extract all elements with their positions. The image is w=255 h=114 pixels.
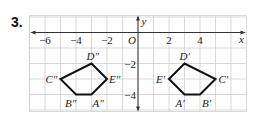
- x-tick-label: −2: [101, 34, 113, 46]
- y-axis-arrow-down-icon: [136, 107, 140, 112]
- origin-label: O: [128, 34, 136, 46]
- x-tick-label: 4: [197, 34, 203, 46]
- x-tick-label: −4: [70, 34, 82, 46]
- vertex-label: B″: [65, 97, 77, 109]
- vertex-label: E″: [108, 73, 121, 85]
- y-axis-arrow-up-icon: [136, 16, 140, 21]
- x-axis-arrow-left-icon: [31, 31, 36, 35]
- vertex-label: C″: [46, 73, 58, 85]
- x-axis-label: x: [238, 33, 244, 45]
- coordinate-plane: −6−4−224−2−4Oxy A′B′C′D′E′A″B″C″D″E″: [0, 0, 255, 114]
- vertex-label: D′: [179, 50, 191, 62]
- vertex-label: A′: [175, 97, 186, 109]
- vertex-label: E′: [155, 73, 166, 85]
- vertex-label: D″: [86, 50, 100, 62]
- x-tick-label: −6: [39, 34, 51, 46]
- exercise-figure: 3. −6−4−224−2−4Oxy A′B′C′D′E′A″B″C″D″E″: [0, 0, 255, 114]
- y-tick-label: −4: [124, 89, 136, 101]
- x-tick-label: 2: [166, 34, 172, 46]
- vertex-label: B′: [202, 97, 212, 109]
- vertex-label: A″: [92, 97, 105, 109]
- y-tick-label: −2: [124, 58, 136, 70]
- vertex-label: C′: [219, 73, 229, 85]
- y-axis-label: y: [141, 15, 147, 27]
